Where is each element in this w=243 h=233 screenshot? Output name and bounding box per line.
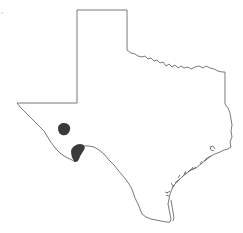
gulf-coast-detail	[166, 146, 215, 221]
range-area-north	[58, 123, 70, 135]
map-region-label: Texas	[0, 232, 1, 233]
texas-distribution-map: Texas	[0, 0, 243, 233]
range-area-south	[71, 144, 85, 162]
map-canvas	[0, 0, 243, 233]
stray-mark	[1, 12, 3, 14]
texas-state-outline	[17, 10, 232, 222]
bay-inlets	[165, 161, 202, 193]
